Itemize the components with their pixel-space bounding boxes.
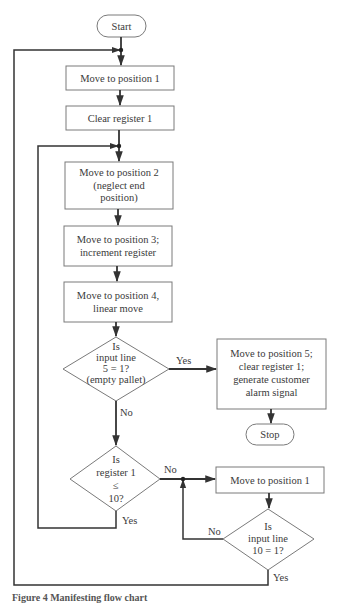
node-line: Is — [112, 454, 120, 465]
node-line: clear register 1; — [239, 361, 304, 372]
junction-dot — [119, 48, 123, 52]
node-line: generate customer — [233, 374, 310, 385]
decision-register-1: Is register 1 ≤ 10? — [70, 446, 160, 511]
label-reg1-no: No — [164, 464, 177, 475]
start-label: Start — [112, 21, 132, 32]
process-clear-register-1: Clear register 1 — [66, 106, 174, 130]
process-move-position-1-return: Move to position 1 — [216, 467, 324, 493]
process-move-position-4: Move to position 4, linear move — [64, 282, 172, 322]
node-line: Move to position 1 — [80, 73, 160, 84]
label-input10-no: No — [208, 526, 221, 537]
node-line: position) — [100, 192, 138, 204]
node-line: (neglect end — [93, 180, 145, 192]
process-move-position-3: Move to position 3; increment register — [64, 226, 172, 266]
junction-dot — [117, 144, 121, 148]
node-line: Move to position 5; — [230, 348, 313, 359]
label-input10-yes: Yes — [273, 572, 288, 583]
node-line: Move to position 3; — [77, 234, 160, 245]
process-move-position-2: Move to position 2 (neglect end position… — [65, 162, 173, 209]
node-line: (empty pallet) — [86, 374, 146, 386]
node-line: alarm signal — [246, 387, 298, 398]
node-line: Is — [264, 521, 272, 532]
stop-terminal: Stop — [246, 424, 294, 445]
decision-input-line-10: Is input line 10 = 1? — [223, 509, 314, 570]
node-line: input line — [96, 352, 136, 363]
node-line: register 1 — [96, 467, 135, 478]
label-input5-no: No — [120, 407, 133, 418]
label-input5-yes: Yes — [176, 355, 191, 366]
process-move-position-1: Move to position 1 — [66, 66, 174, 90]
node-line: Move to position 4, — [77, 290, 159, 301]
figure-caption: Figure 4 Manifesting flow chart — [12, 592, 147, 603]
node-line: ≤ — [113, 480, 119, 491]
node-line: Is — [112, 341, 120, 352]
decision-input-line-5: Is input line 5 = 1? (empty pallet) — [63, 337, 169, 401]
label-reg1-yes: Yes — [122, 515, 137, 526]
node-line: 10? — [108, 493, 124, 504]
process-move-position-5: Move to position 5; clear register 1; ge… — [217, 339, 326, 409]
start-terminal: Start — [97, 15, 146, 37]
junction-dot — [181, 477, 185, 481]
node-line: 5 = 1? — [103, 363, 130, 374]
node-line: Clear register 1 — [88, 113, 153, 124]
node-line: Move to position 1 — [230, 475, 310, 486]
node-line: linear move — [93, 303, 143, 314]
node-line: increment register — [80, 247, 157, 258]
stop-label: Stop — [260, 429, 279, 440]
node-line: 10 = 1? — [252, 545, 284, 556]
node-line: input line — [248, 533, 288, 544]
node-line: Move to position 2 — [79, 167, 159, 178]
